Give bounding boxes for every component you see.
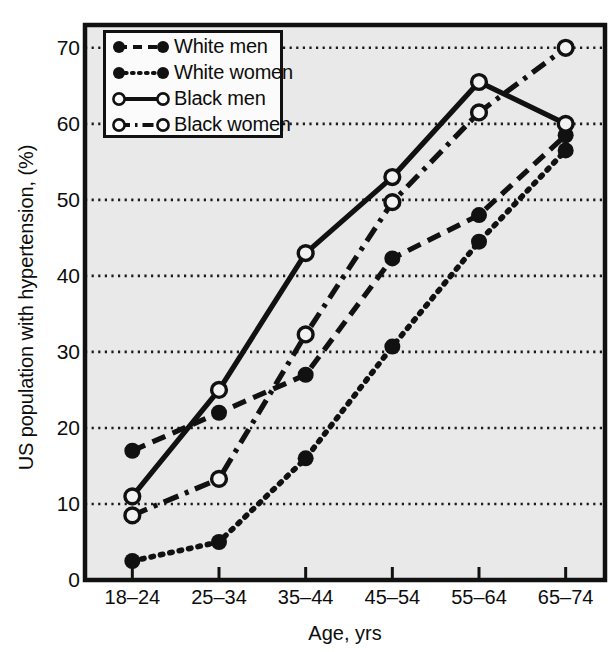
data-point-black-women bbox=[558, 40, 573, 55]
legend-label-white-men: White men bbox=[174, 35, 268, 58]
legend-label-black-women: Black women bbox=[174, 113, 291, 136]
y-axis-title: US population with hypertension, (%) bbox=[15, 48, 38, 568]
legend-item-black-men: Black men bbox=[106, 86, 280, 111]
data-point-black-women bbox=[385, 195, 400, 210]
data-point-white-women bbox=[384, 339, 400, 355]
data-point-black-men bbox=[125, 489, 140, 504]
legend-item-white-men: White men bbox=[106, 34, 280, 59]
x-tick-label: 25–34 bbox=[191, 586, 247, 609]
legend-item-white-women: White women bbox=[106, 60, 280, 85]
x-tick-label: 45–54 bbox=[365, 586, 421, 609]
data-point-white-men bbox=[124, 443, 140, 459]
data-point-white-women bbox=[471, 234, 487, 250]
legend-item-black-women: Black women bbox=[106, 112, 280, 137]
data-point-white-men bbox=[211, 405, 227, 421]
data-point-white-women bbox=[298, 450, 314, 466]
data-point-white-women bbox=[124, 553, 140, 569]
legend-swatch-white-men bbox=[112, 38, 170, 56]
x-axis-title: Age, yrs bbox=[85, 622, 605, 645]
legend-label-black-men: Black men bbox=[174, 87, 266, 110]
chart-legend: White men White women Black men bbox=[103, 30, 283, 138]
data-point-white-men bbox=[298, 367, 314, 383]
x-tick-label: 35–44 bbox=[278, 586, 334, 609]
y-tick-label: 60 bbox=[34, 112, 80, 136]
y-tick-label: 30 bbox=[34, 340, 80, 364]
y-tick-label: 0 bbox=[34, 568, 80, 592]
data-point-black-men bbox=[558, 116, 573, 131]
data-point-black-men bbox=[472, 75, 487, 90]
y-tick-label: 10 bbox=[34, 492, 80, 516]
data-point-black-men bbox=[385, 170, 400, 185]
data-point-white-women bbox=[558, 142, 574, 158]
data-point-black-women bbox=[472, 105, 487, 120]
data-point-black-women bbox=[125, 508, 140, 523]
data-point-black-men bbox=[298, 246, 313, 261]
data-point-white-men bbox=[471, 207, 487, 223]
y-tick-label: 50 bbox=[34, 188, 80, 212]
legend-swatch-black-men bbox=[112, 90, 170, 108]
data-point-white-women bbox=[211, 534, 227, 550]
y-tick-label: 20 bbox=[34, 416, 80, 440]
data-point-black-women bbox=[212, 471, 227, 486]
y-tick-label: 40 bbox=[34, 264, 80, 288]
x-tick-label: 65–74 bbox=[538, 586, 594, 609]
x-tick-label: 18–24 bbox=[105, 586, 161, 609]
legend-label-white-women: White women bbox=[174, 61, 293, 84]
x-tick-label: 55–64 bbox=[451, 586, 507, 609]
legend-swatch-white-women bbox=[112, 64, 170, 82]
data-point-white-men bbox=[384, 250, 400, 266]
data-point-black-women bbox=[298, 327, 313, 342]
data-point-black-men bbox=[212, 383, 227, 398]
y-tick-label: 70 bbox=[34, 36, 80, 60]
hypertension-by-age-chart: 010203040506070 US population with hyper… bbox=[0, 0, 616, 652]
legend-swatch-black-women bbox=[112, 116, 170, 134]
chart-plot-area bbox=[0, 0, 616, 652]
